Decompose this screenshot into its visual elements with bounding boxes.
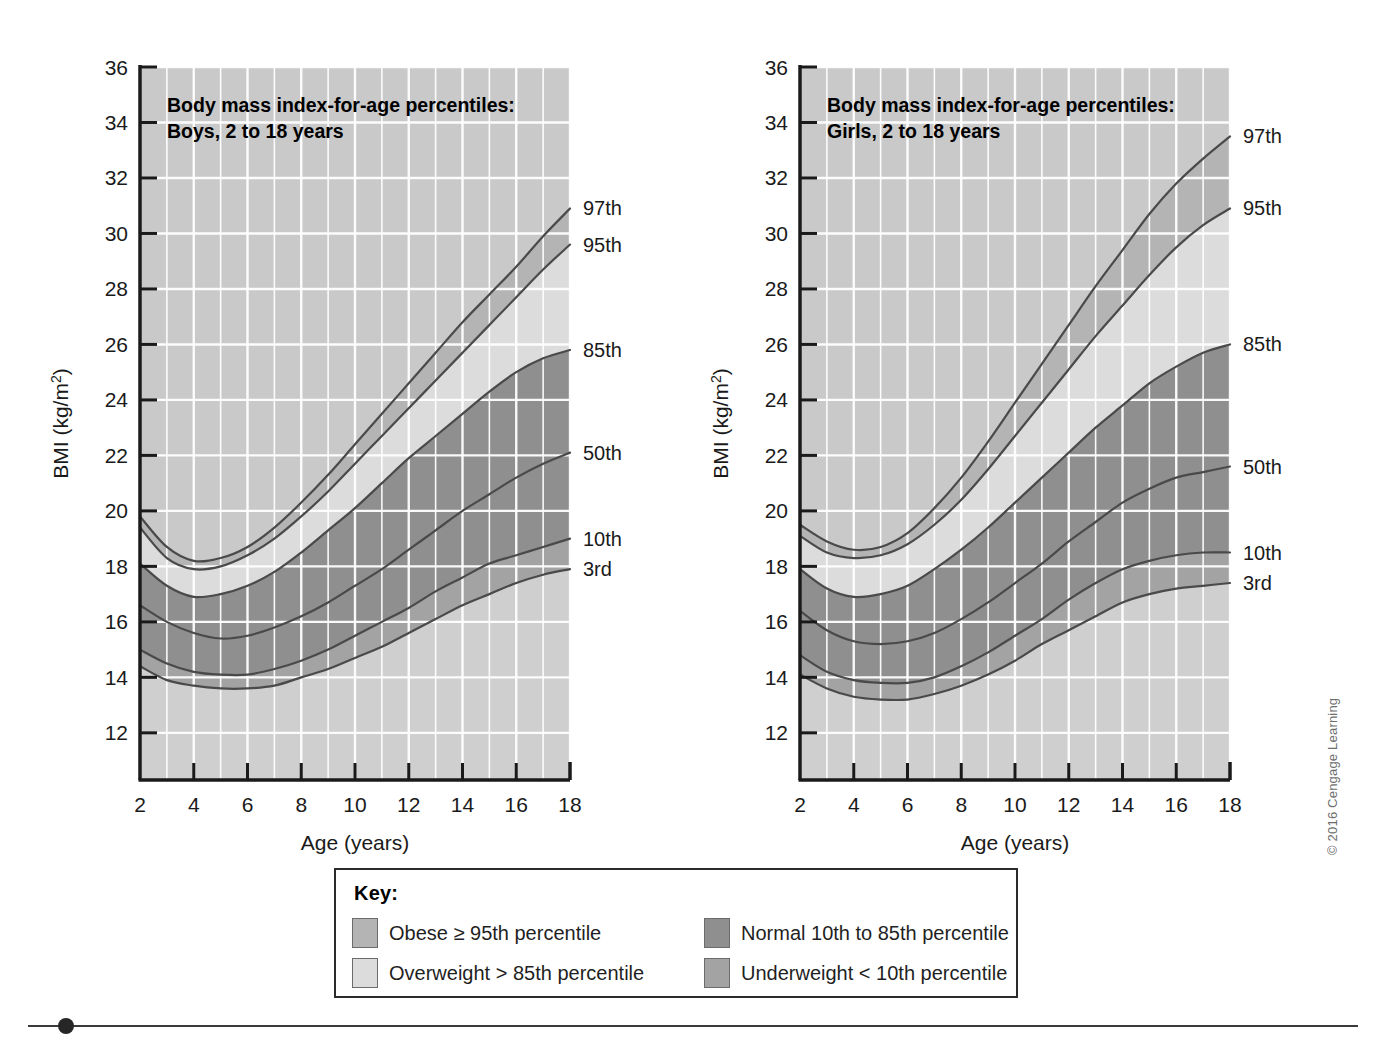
y-tick-label: 14	[105, 666, 129, 689]
percentile-label-85th: 85th	[583, 339, 622, 361]
page-rule-dot	[58, 1018, 74, 1034]
x-tick-label: 2	[794, 793, 806, 816]
percentile-label-95th: 95th	[583, 234, 622, 256]
legend-item: Obese ≥ 95th percentile	[352, 918, 704, 948]
chart-girls-svg: 1214161820222426283032343624681012141618…	[660, 0, 1350, 860]
percentile-label-97th: 97th	[583, 197, 622, 219]
x-tick-label: 2	[134, 793, 146, 816]
chart-title-line2: Boys, 2 to 18 years	[167, 120, 344, 142]
chart-title-line2: Girls, 2 to 18 years	[827, 120, 1001, 142]
percentile-label-10th: 10th	[583, 528, 622, 550]
percentile-end-labels: 97th95th85th50th10th3rd	[583, 197, 622, 580]
x-tick-label: 4	[188, 793, 200, 816]
y-tick-label: 22	[105, 444, 128, 467]
page-rule	[28, 1025, 1358, 1027]
y-tick-label: 14	[765, 666, 789, 689]
x-tick-label: 10	[343, 793, 366, 816]
legend-key-box: Key: Obese ≥ 95th percentileNormal 10th …	[334, 868, 1018, 998]
percentile-label-3rd: 3rd	[1243, 572, 1272, 594]
chart-girls: 1214161820222426283032343624681012141618…	[660, 0, 1360, 860]
y-tick-label: 24	[105, 388, 129, 411]
x-tick-label: 8	[295, 793, 307, 816]
x-tick-label: 14	[1111, 793, 1135, 816]
y-tick-label: 34	[765, 111, 789, 134]
y-axis-title: BMI (kg/m2)	[48, 368, 72, 478]
chart-boys-svg: 1214161820222426283032343624681012141618…	[0, 0, 690, 860]
y-tick-label: 22	[765, 444, 788, 467]
y-tick-label: 32	[765, 166, 788, 189]
x-tick-label: 18	[1218, 793, 1241, 816]
y-tick-label: 16	[765, 610, 788, 633]
copyright-notice: © 2016 Cengage Learning	[1325, 698, 1340, 855]
y-axis-title-text: BMI (kg/m2)	[48, 368, 72, 478]
x-tick-label: 16	[505, 793, 528, 816]
y-tick-label: 26	[105, 333, 128, 356]
legend-swatch	[352, 918, 378, 948]
chart-title-line1: Body mass index-for-age percentiles:	[167, 94, 515, 116]
x-tick-label: 6	[242, 793, 254, 816]
x-tick-label: 12	[1057, 793, 1080, 816]
legend-item: Overweight > 85th percentile	[352, 958, 704, 988]
legend-label: Underweight < 10th percentile	[741, 962, 1007, 985]
x-tick-label: 14	[451, 793, 475, 816]
y-tick-label: 18	[105, 555, 128, 578]
y-tick-label: 24	[765, 388, 789, 411]
y-tick-label: 20	[765, 499, 788, 522]
percentile-label-10th: 10th	[1243, 542, 1282, 564]
bmi-percentile-figure: 1214161820222426283032343624681012141618…	[0, 0, 1380, 1056]
y-tick-label: 12	[765, 721, 788, 744]
legend-label: Obese ≥ 95th percentile	[389, 922, 601, 945]
legend-title: Key:	[354, 882, 1016, 905]
legend-swatch	[352, 958, 378, 988]
y-tick-label: 28	[765, 277, 788, 300]
x-tick-label: 12	[397, 793, 420, 816]
legend-swatch	[704, 958, 730, 988]
y-tick-label: 26	[765, 333, 788, 356]
x-axis-title: Age (years)	[301, 831, 410, 854]
legend-swatch	[704, 918, 730, 948]
chart-title-line1: Body mass index-for-age percentiles:	[827, 94, 1175, 116]
percentile-label-95th: 95th	[1243, 197, 1282, 219]
x-tick-label: 6	[902, 793, 914, 816]
percentile-label-50th: 50th	[583, 442, 622, 464]
x-tick-label: 18	[558, 793, 581, 816]
y-tick-label: 12	[105, 721, 128, 744]
percentile-label-85th: 85th	[1243, 333, 1282, 355]
y-tick-label: 20	[105, 499, 128, 522]
x-axis-title: Age (years)	[961, 831, 1070, 854]
legend-label: Normal 10th to 85th percentile	[741, 922, 1009, 945]
percentile-label-97th: 97th	[1243, 125, 1282, 147]
percentile-end-labels: 97th95th85th50th10th3rd	[1243, 125, 1282, 594]
x-tick-label: 16	[1165, 793, 1188, 816]
percentile-label-50th: 50th	[1243, 456, 1282, 478]
legend-item: Normal 10th to 85th percentile	[704, 918, 1016, 948]
y-tick-label: 32	[105, 166, 128, 189]
y-axis-title-text: BMI (kg/m2)	[708, 368, 732, 478]
percentile-label-3rd: 3rd	[583, 558, 612, 580]
y-axis-title: BMI (kg/m2)	[708, 368, 732, 478]
legend-label: Overweight > 85th percentile	[389, 962, 644, 985]
y-tick-label: 16	[105, 610, 128, 633]
y-tick-label: 34	[105, 111, 129, 134]
x-tick-label: 10	[1003, 793, 1026, 816]
legend-item: Underweight < 10th percentile	[704, 958, 1016, 988]
chart-boys: 1214161820222426283032343624681012141618…	[0, 0, 690, 860]
legend-items: Obese ≥ 95th percentileNormal 10th to 85…	[352, 913, 1016, 993]
x-tick-label: 4	[848, 793, 860, 816]
y-tick-label: 18	[765, 555, 788, 578]
x-tick-label: 8	[955, 793, 967, 816]
y-tick-label: 30	[105, 222, 128, 245]
y-tick-label: 36	[105, 56, 128, 79]
y-tick-label: 28	[105, 277, 128, 300]
y-tick-label: 30	[765, 222, 788, 245]
y-tick-label: 36	[765, 56, 788, 79]
